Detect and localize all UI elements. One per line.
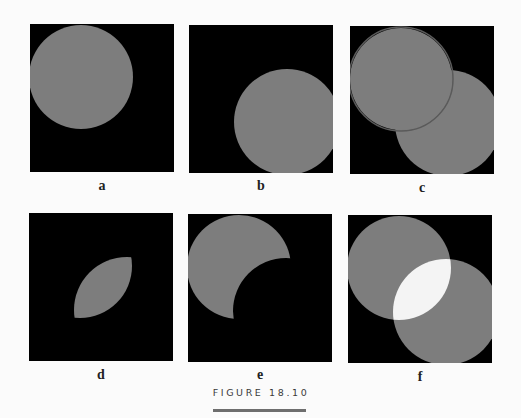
panel-a [30,24,174,172]
panel-c [350,26,494,174]
panel-b [189,25,333,173]
panel-e [188,214,332,362]
figure-caption: FIGURE 18.10 [212,387,310,398]
panel-label-a: a [30,178,174,194]
panel-label-f: f [348,369,492,385]
difference-image [188,214,332,362]
panel-label-c: c [350,180,494,196]
caption-underline [213,409,306,412]
overlay-image [350,26,494,174]
panel-f [348,215,492,363]
panel-d [29,213,173,361]
panel-label-d: d [29,367,173,383]
panel-label-e: e [188,367,332,383]
circle-a-image [30,24,174,172]
panel-label-b: b [189,178,333,194]
intersection-image [29,213,173,361]
sum-image [348,215,492,363]
circle-b-image [189,25,333,173]
